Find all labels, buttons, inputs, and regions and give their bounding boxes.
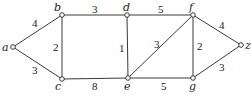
weight-g-z: 3	[219, 61, 225, 73]
weight-f-z: 4	[219, 19, 225, 31]
node-label-b: b	[54, 1, 61, 14]
edge-d-e	[127, 15, 128, 78]
node-z	[239, 43, 244, 48]
node-label-c: c	[55, 80, 61, 93]
edge-e-f	[128, 15, 193, 78]
node-label-g: g	[189, 80, 196, 93]
node-label-a: a	[2, 41, 9, 54]
weight-e-f: 3	[154, 38, 160, 50]
edge-c-e	[62, 78, 128, 79]
weight-f-g: 2	[197, 40, 203, 52]
weight-d-e: 1	[119, 42, 125, 54]
weight-e-g: 5	[161, 80, 167, 92]
node-label-e: e	[124, 80, 131, 93]
edges	[13, 15, 241, 79]
weighted-graph-diagram: 4 3 2 3 8 1 5 3 5 2 4 3 a b c d e f g z	[0, 0, 251, 100]
weight-b-d: 3	[92, 3, 98, 15]
weight-a-c: 3	[32, 64, 38, 76]
node-label-f: f	[188, 1, 195, 14]
weight-d-f: 5	[158, 3, 164, 15]
weight-c-e: 8	[92, 80, 98, 92]
node-label-z: z	[244, 39, 251, 52]
node-a	[11, 45, 16, 50]
node-label-d: d	[123, 1, 130, 14]
weight-a-b: 4	[32, 17, 38, 29]
weight-b-c: 2	[53, 41, 59, 53]
